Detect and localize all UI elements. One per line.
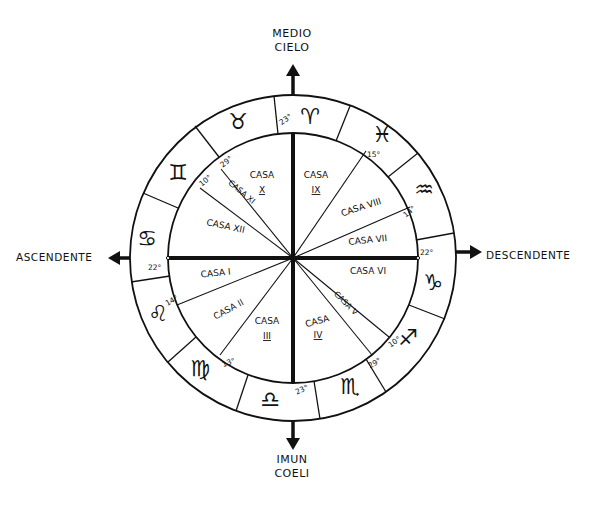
pisces-icon: ♓ <box>372 122 392 147</box>
descendente-label: DESCENDENTE <box>486 248 570 262</box>
medio-cielo-label: MEDIO CIELO <box>262 27 322 55</box>
degree-viii-ix: 15° <box>367 150 381 159</box>
virgo-icon: ♍ <box>190 356 210 381</box>
degree-asc: 22° <box>148 263 162 272</box>
house-viii: CASA VIII <box>340 196 383 218</box>
house-iii-line1: CASA <box>255 316 280 326</box>
libra-icon: ♎ <box>260 387 280 412</box>
ascendente-label: ASCENDENTE <box>16 250 92 264</box>
house-i: CASA I <box>200 266 231 279</box>
imun-coeli-label: IMUN COELI <box>262 453 322 481</box>
house-vii: CASA VII <box>348 233 388 247</box>
imun-coeli-line1: IMUN <box>262 453 322 467</box>
degree-vii-viii: 14° <box>401 204 417 220</box>
house-ix-line2: IX <box>312 185 321 195</box>
aries-icon: ♈ <box>300 104 320 129</box>
scorpio-icon: ♏ <box>340 374 360 399</box>
imun-coeli-line2: COELI <box>262 467 322 481</box>
medio-cielo-line2: CIELO <box>262 41 322 55</box>
house-xi: CASA XI <box>226 178 256 206</box>
medio-cielo-line1: MEDIO <box>262 27 322 41</box>
house-vi: CASA VI <box>350 266 386 276</box>
gemini-icon: ♊ <box>168 160 188 185</box>
arrow-up-icon <box>286 64 300 76</box>
taurus-icon: ♉ <box>228 109 248 134</box>
house-x-line2: X <box>259 185 265 195</box>
cancer-icon: ♋ <box>137 226 157 251</box>
arrow-down-icon <box>286 438 300 450</box>
leo-icon: ♌ <box>148 301 168 326</box>
aquarius-icon: ♒ <box>414 177 434 202</box>
house-ix-line1: CASA <box>304 170 329 180</box>
degree-dsc: 22° <box>420 248 434 257</box>
house-iii-line2: III <box>263 331 271 341</box>
house-x-line1: CASA <box>250 170 275 180</box>
degree-ii-iii: 13° <box>221 356 237 369</box>
house-ii: CASA II <box>212 297 246 321</box>
house-xii: CASA XII <box>206 217 246 235</box>
capricorn-icon: ♑ <box>423 270 443 295</box>
arrow-right-icon <box>470 245 482 259</box>
arrow-left-icon <box>108 251 120 265</box>
house-v: CASA V <box>332 290 360 318</box>
house-iv-line1: CASA <box>304 313 331 329</box>
degree-ic: 23° <box>294 383 310 397</box>
sagittarius-icon: ♐ <box>398 325 418 350</box>
degree-mc: 23° <box>278 112 294 127</box>
degree-labels: 23° 23° 22° 22° 29° 10° 14° 13° 29° 10° … <box>148 112 434 397</box>
house-iv-line2: IV <box>314 330 324 340</box>
center-dot <box>290 255 296 261</box>
